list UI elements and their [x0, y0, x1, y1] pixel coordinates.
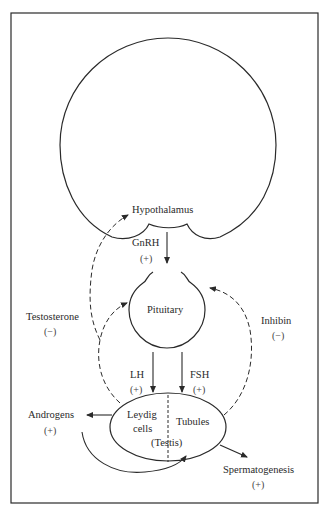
gnrh-label: GnRH [132, 237, 159, 249]
spermatogenesis-arrow [220, 445, 247, 457]
gnrh-sign: (+) [140, 253, 152, 265]
androgens-sign: (+) [44, 425, 56, 437]
androgens-label: Androgens [28, 409, 74, 421]
inhibin-arrow [210, 288, 252, 415]
testis-label: (Testis) [151, 437, 182, 449]
testosterone-sign: (−) [44, 326, 56, 338]
testosterone-to-pituitary-arrow [99, 303, 127, 403]
leydig-label-line2: cells [133, 423, 152, 435]
leydig-label-line1: Leydig [127, 409, 157, 421]
lh-sign: (+) [130, 384, 142, 396]
tubules-label: Tubules [176, 416, 209, 428]
inhibin-label: Inhibin [261, 315, 291, 327]
lh-label: LH [130, 369, 144, 381]
pituitary-label: Pituitary [147, 304, 183, 316]
figure-frame [11, 13, 318, 503]
hypothalamus-label: Hypothalamus [132, 204, 193, 216]
spermatogenesis-sign: (+) [252, 479, 264, 491]
spermatogenesis-label: Spermatogenesis [223, 464, 294, 476]
fsh-label: FSH [190, 369, 209, 381]
testosterone-to-hypothalamus-arrow [90, 215, 128, 340]
inhibin-sign: (−) [272, 330, 284, 342]
fsh-sign: (+) [193, 384, 205, 396]
testosterone-label: Testosterone [26, 311, 79, 323]
